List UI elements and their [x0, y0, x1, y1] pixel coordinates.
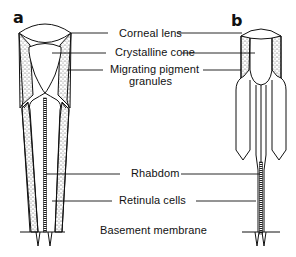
rhabdom-b	[260, 162, 263, 234]
ommatidium-b	[236, 29, 286, 246]
corneal-lens-b	[241, 29, 281, 39]
label-retinula-cells: Retinula cells	[119, 195, 186, 206]
label-rhabdom: Rhabdom	[131, 168, 179, 179]
ommatidium-a	[19, 24, 71, 246]
label-corneal-lens: Corneal lens	[119, 28, 182, 39]
rhabdom-a	[44, 98, 47, 232]
label-basement-membrane: Basement membrane	[100, 225, 207, 236]
ommatidium-diagram: a b Corneal lens Crystalline cone Migrat…	[0, 0, 296, 257]
label-crystalline-cone: Crystalline cone	[115, 47, 195, 58]
label-granules: granules	[129, 76, 172, 87]
pigment-left-lower-a	[22, 102, 38, 232]
panel-label-b: b	[231, 13, 242, 29]
crystalline-cone-b	[250, 38, 272, 85]
crystalline-cone-a	[29, 44, 61, 94]
label-migrating-pigment: Migrating pigment	[110, 64, 199, 75]
panel-label-a: a	[13, 10, 24, 26]
corneal-lens-a	[19, 24, 71, 43]
